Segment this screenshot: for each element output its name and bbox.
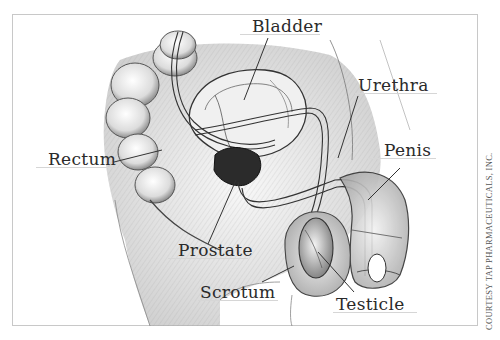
label-scrotum: Scrotum (200, 284, 276, 301)
label-urethra: Urethra (358, 77, 429, 94)
label-prostate: Prostate (178, 242, 253, 259)
label-testicle: Testicle (336, 296, 405, 313)
label-bladder: Bladder (252, 18, 322, 35)
scrotum-testicle (285, 212, 350, 296)
label-rectum: Rectum (48, 151, 116, 168)
label-penis: Penis (384, 142, 431, 159)
photo-credit: COURTESY TAP PHARMACEUTICALS, INC. (484, 152, 494, 330)
